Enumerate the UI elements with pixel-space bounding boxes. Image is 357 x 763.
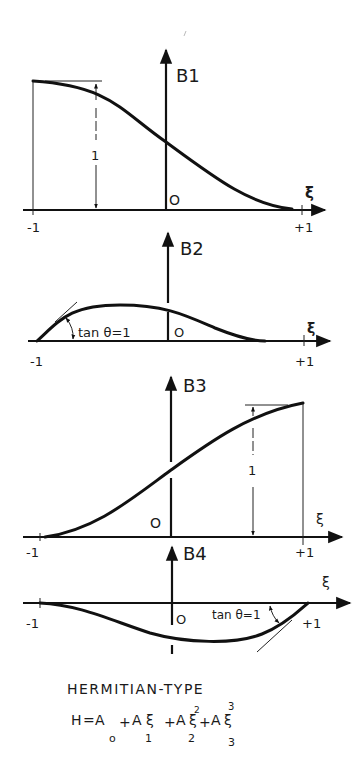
b1-origin-label: O [169,192,180,208]
hermitian-shape-functions-diagram: B1 1 O ξ -1 +1 tan θ=1 B2 O ξ -1 +1 B3 1 [0,0,357,763]
formula-term1-sub: 1 [145,732,152,745]
b2-origin-label: O [174,325,184,340]
b2-label: B2 [180,238,204,259]
formula-term2-coef: A [176,712,186,728]
b4-xi-label: ξ [322,574,330,590]
formula-plus-1: + [119,714,131,730]
b2-minus1-label: -1 [30,354,43,369]
b2-angle-arc [66,318,73,339]
formula-term0-sub: o [109,732,116,745]
b2-plus1-label: +1 [295,354,314,369]
formula-lhs: H [71,712,82,728]
b3-xi-label: ξ [316,511,324,527]
b4-label: B4 [183,543,207,564]
formula-term0-coef: A [95,712,105,728]
b3-origin-label: O [150,515,161,531]
b2-curve [37,305,265,341]
hermitian-formula: H = A o + A ξ 1 + A ξ 2 2 + A ξ 3 3 [71,701,235,749]
formula-equals: = [83,712,95,728]
formula-plus-3: + [199,714,211,730]
b1-curve [33,81,292,209]
b1-label: B1 [176,65,200,86]
formula-term1-var: ξ [146,712,154,728]
panel-b3: B3 1 O ξ -1 +1 [23,375,342,560]
b3-curve [45,403,303,537]
b4-minus1-label: -1 [26,616,39,631]
b2-xi-label: ξ [307,320,315,336]
b3-plus1-label: +1 [295,545,314,560]
diagram-title: HERMITIAN-TYPE [67,681,204,697]
formula-term1-coef: A [132,712,142,728]
b4-plus1-label: +1 [302,616,321,631]
formula-term3-power: 3 [228,701,234,712]
b4-angle-arc [270,606,279,623]
formula-plus-2: + [164,714,176,730]
stray-mark [184,31,186,36]
formula-term2-sub: 2 [188,732,195,745]
b4-tangent-annotation: tan θ=1 [212,608,261,622]
b1-xi-label: ξ [305,184,314,202]
b4-curve [40,603,308,641]
panel-b1: B1 1 O ξ -1 +1 [23,50,325,235]
b4-tangent-line [257,620,292,652]
b3-minus1-label: -1 [26,545,39,560]
formula-term3-sub: 3 [228,736,235,749]
panel-b2: tan θ=1 B2 O ξ -1 +1 [28,233,330,369]
b1-dimension-label: 1 [91,148,99,163]
b4-origin-label: O [176,612,186,627]
b3-dimension-label: 1 [248,463,256,478]
b2-tangent-annotation: tan θ=1 [78,325,131,340]
b1-minus1-label: -1 [27,220,40,235]
formula-term3-var: ξ [224,712,232,728]
formula-term3-coef: A [211,712,221,728]
b1-plus1-label: +1 [294,220,313,235]
b3-label: B3 [183,375,207,396]
